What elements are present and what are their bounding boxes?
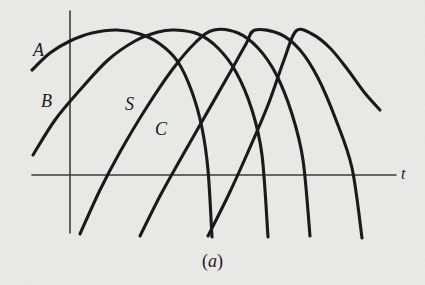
caption-letter: a (208, 251, 217, 271)
figure-caption: (a) (0, 252, 425, 270)
t-axis-label: t (401, 166, 405, 182)
curve-e (208, 29, 380, 236)
figure-container: A B S C t (a) (0, 0, 425, 285)
chart-plot (0, 0, 425, 285)
curve-a (32, 30, 212, 237)
curve-c (140, 29, 362, 238)
curve-b (33, 30, 268, 237)
curve-label-a: A (33, 41, 44, 59)
curve-label-b: B (41, 92, 52, 110)
curve-label-s: S (125, 95, 134, 113)
caption-paren-close: ) (217, 251, 223, 271)
curves-group (32, 29, 380, 238)
curve-label-c: C (155, 120, 167, 138)
